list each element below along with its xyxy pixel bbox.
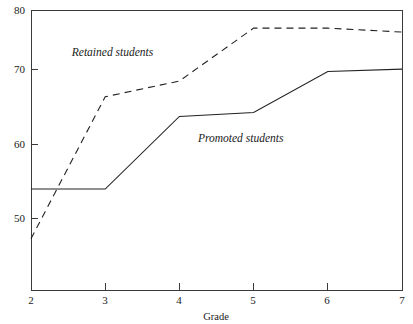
y-axis-ticks [31,10,38,218]
x-axis-ticks [31,283,402,290]
y-axis-tick-labels: 50 60 70 80 [14,4,26,224]
x-tick-label-3: 3 [102,294,108,306]
series-annotation-promoted-students: Promoted students [197,132,284,144]
x-tick-label-7: 7 [399,294,405,306]
y-tick-label-50: 50 [14,212,26,224]
line-chart-svg: 50 60 70 80 2 3 4 5 6 7 Grade R [0,0,413,324]
y-tick-label-80: 80 [14,4,26,16]
y-tick-label-60: 60 [14,138,26,150]
x-tick-label-5: 5 [250,294,256,306]
x-axis-title: Grade [203,311,229,322]
series-annotation-retained-students: Retained students [71,46,154,58]
x-tick-label-2: 2 [28,294,34,306]
x-tick-label-6: 6 [324,294,330,306]
x-axis-tick-labels: 2 3 4 5 6 7 [28,294,405,306]
y-tick-label-70: 70 [14,63,26,75]
x-tick-label-4: 4 [176,294,182,306]
chart-container: 50 60 70 80 2 3 4 5 6 7 Grade R [0,0,413,324]
series-line-promoted-students [31,69,402,189]
